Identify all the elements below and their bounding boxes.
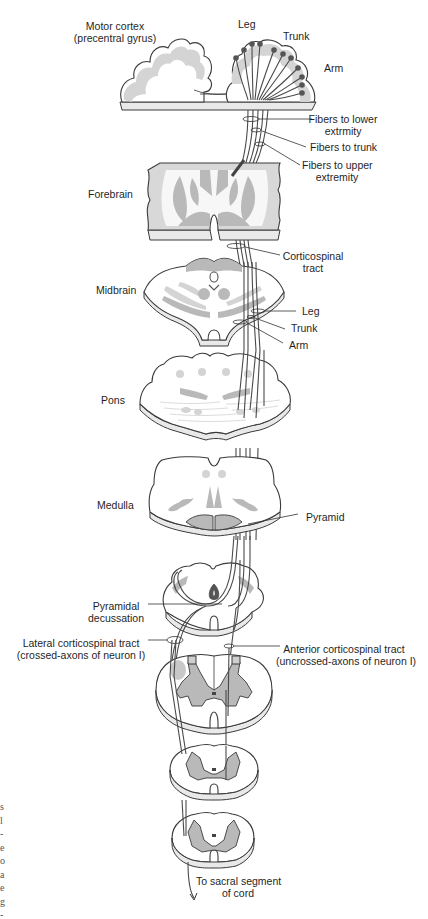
anterior-corticospinal-label: Anterior corticospinal tract (uncrossed-…	[276, 643, 412, 667]
cortex-label-line1: Motor cortex	[60, 20, 170, 32]
midbrain-trunk-label: Trunk	[291, 322, 317, 334]
trunk-label: Trunk	[283, 30, 309, 42]
sacral-line2: of cord	[196, 887, 280, 899]
decussation-line1: Pyramidal	[86, 600, 146, 612]
midbrain-arm-label: Arm	[289, 339, 308, 351]
corticospinal-diagram: .ol { fill: #ffffff; stroke: #3a3a3a; st…	[0, 0, 428, 919]
edge-char: a	[0, 868, 5, 882]
arm-label: Arm	[324, 62, 343, 74]
edge-char: l	[0, 814, 5, 828]
forebrain-label: Forebrain	[88, 188, 133, 200]
edge-char: e	[0, 841, 5, 855]
decussation-section	[148, 560, 263, 660]
pyramid-label: Pyramid	[306, 511, 345, 523]
edge-char: e	[0, 881, 5, 895]
midbrain-leg-label: Leg	[302, 305, 320, 317]
edge-char: o	[0, 854, 5, 868]
edge-char: -	[0, 827, 5, 841]
motor-cortex	[120, 39, 316, 110]
corticospinal-line1: Corticospinal	[282, 250, 344, 262]
edge-char: g	[0, 895, 5, 909]
fibers-lower-line1: Fibers to lower	[308, 113, 378, 125]
sacral-segment-label: To sacral segment of cord	[196, 875, 280, 899]
leg-label: Leg	[238, 18, 256, 30]
anterior-line2: (uncrossed-axons of neuron I)	[276, 655, 412, 667]
midbrain-label: Midbrain	[96, 284, 136, 296]
edge-char: -	[0, 908, 5, 919]
cortex-label-line2: (precentral gyrus)	[60, 32, 170, 44]
fibers-lower-line2: extrmity	[308, 125, 378, 137]
fibers-upper-label: Fibers to upper extremity	[302, 159, 372, 183]
anterior-line1: Anterior corticospinal tract	[276, 643, 412, 655]
corticospinal-line2: tract	[282, 262, 344, 274]
edge-char: s	[0, 800, 5, 814]
fibers-lower-label: Fibers to lower extrmity	[308, 113, 378, 137]
cropped-page-text: s l - e o a e g -	[0, 800, 5, 919]
lateral-corticospinal-label: Lateral corticospinal tract (crossed-axo…	[16, 637, 146, 661]
decussation-label: Pyramidal decussation	[86, 600, 146, 624]
medulla-label: Medulla	[97, 499, 134, 511]
midbrain-section	[144, 259, 296, 350]
lateral-line1: Lateral corticospinal tract	[16, 637, 146, 649]
pons-label: Pons	[101, 394, 125, 406]
sacral-line1: To sacral segment	[196, 875, 280, 887]
cortex-label: Motor cortex (precentral gyrus)	[60, 20, 170, 44]
fibers-upper-line1: Fibers to upper	[302, 159, 372, 171]
pons-section	[140, 350, 290, 440]
medulla-section	[149, 457, 298, 536]
lateral-line2: (crossed-axons of neuron I)	[16, 649, 146, 661]
decussation-line2: decussation	[86, 612, 146, 624]
tract-markers	[148, 637, 280, 649]
tract-fibers-lower	[232, 536, 250, 560]
fibers-trunk-label: Fibers to trunk	[310, 141, 377, 153]
forebrain-section	[147, 160, 280, 240]
fibers-upper-line2: extremity	[302, 171, 372, 183]
corticospinal-tract-label: Corticospinal tract	[282, 250, 344, 274]
